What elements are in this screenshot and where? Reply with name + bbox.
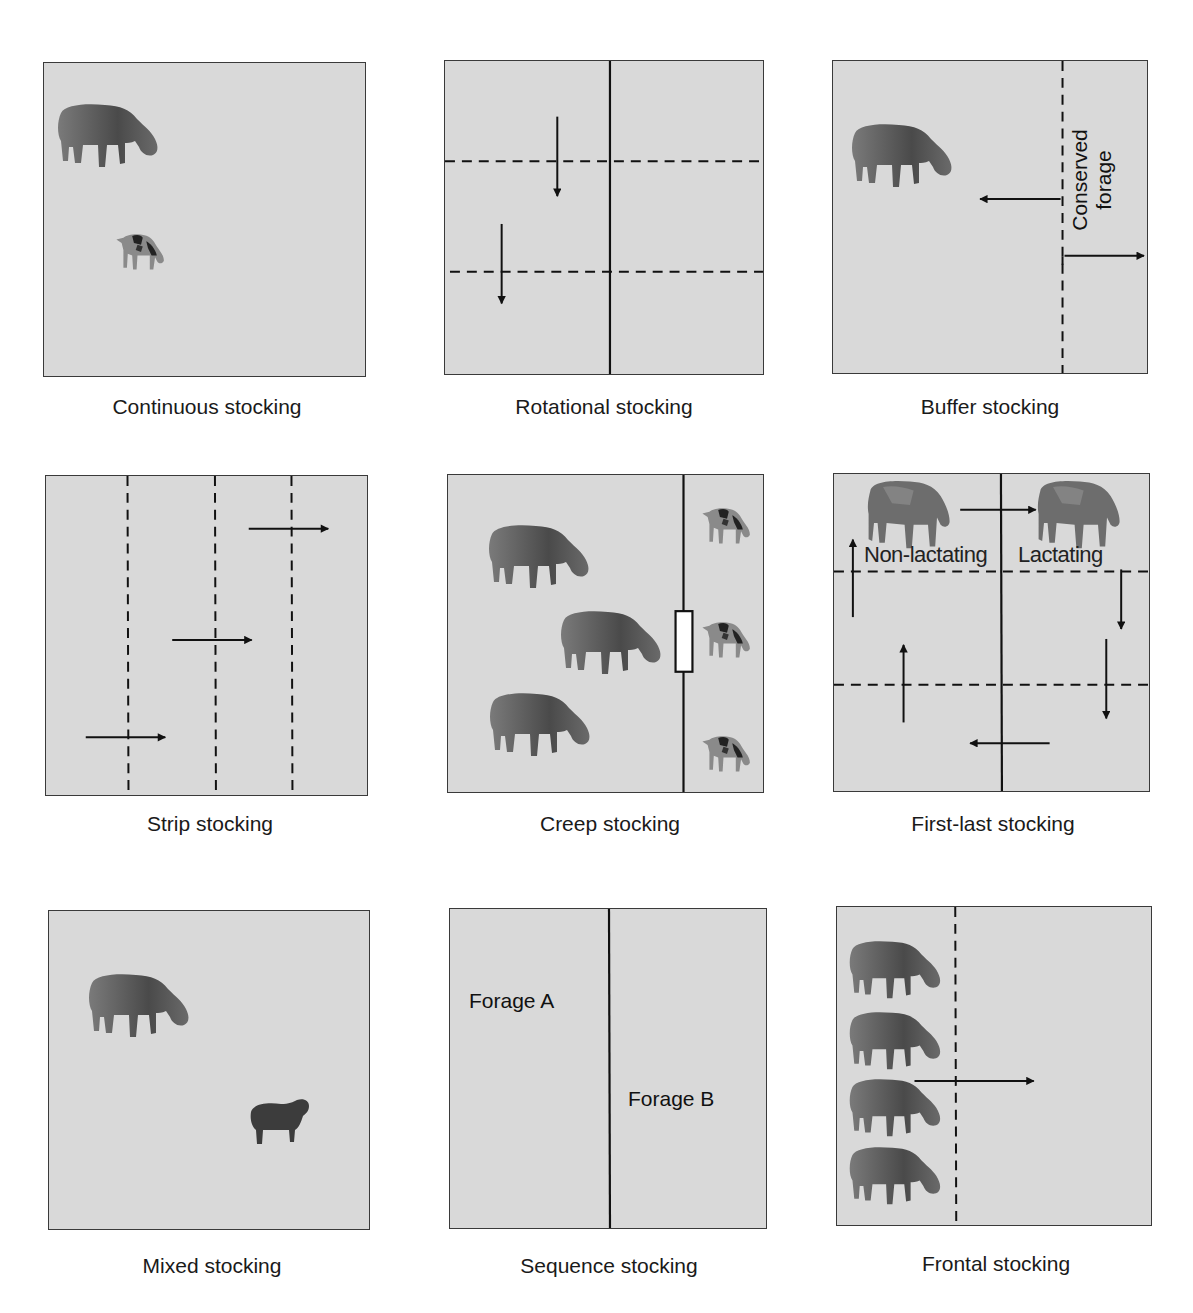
- caption-buffer-stocking: Buffer stocking: [921, 395, 1060, 419]
- calf-image: [111, 229, 171, 273]
- non-lactating-label: Non-lactating: [864, 542, 987, 568]
- forage-b-label: Forage B: [628, 1087, 714, 1111]
- forage-a-label: Forage A: [469, 989, 554, 1013]
- panel-strip-stocking: [45, 475, 368, 796]
- caption-rotational-stocking: Rotational stocking: [515, 395, 692, 419]
- caption-strip-stocking: Strip stocking: [147, 812, 273, 836]
- calf-image: [698, 617, 756, 661]
- panel-buffer-stocking: Conserved forage: [832, 60, 1148, 374]
- panel-first-last-stocking: Non-lactating Lactating: [833, 473, 1150, 792]
- lactating-label: Lactating: [1018, 542, 1103, 568]
- sequence-lines: [450, 909, 766, 1228]
- panel-rotational-stocking: [444, 60, 764, 375]
- panel-continuous-stocking: [43, 62, 366, 377]
- caption-sequence-stocking: Sequence stocking: [520, 1254, 697, 1278]
- rotational-lines: [445, 61, 763, 374]
- first-last-lines: [834, 474, 1149, 791]
- caption-continuous-stocking: Continuous stocking: [112, 395, 301, 419]
- adult-cow-image: [487, 689, 597, 761]
- panel-frontal-stocking: [836, 906, 1152, 1226]
- calf-image: [698, 731, 756, 775]
- caption-creep-stocking: Creep stocking: [540, 812, 680, 836]
- caption-frontal-stocking: Frontal stocking: [922, 1252, 1070, 1276]
- caption-mixed-stocking: Mixed stocking: [143, 1254, 282, 1278]
- creep-gate: [676, 611, 693, 672]
- calf-image: [698, 503, 756, 547]
- frontal-lines: [837, 907, 1151, 1225]
- adult-cow-image: [486, 521, 596, 593]
- panel-mixed-stocking: [48, 910, 370, 1230]
- caption-first-last-stocking: First-last stocking: [911, 812, 1074, 836]
- sheep-image: [247, 1095, 311, 1147]
- adult-cow-image: [85, 971, 197, 1041]
- adult-cow-image: [849, 121, 959, 191]
- strip-lines: [46, 476, 367, 795]
- panel-sequence-stocking: Forage A Forage B: [449, 908, 767, 1229]
- panel-creep-stocking: [447, 474, 764, 793]
- conserved-forage-label: Conserved forage: [1068, 125, 1120, 235]
- adult-cow-image: [558, 607, 668, 679]
- adult-cow-image: [54, 101, 166, 171]
